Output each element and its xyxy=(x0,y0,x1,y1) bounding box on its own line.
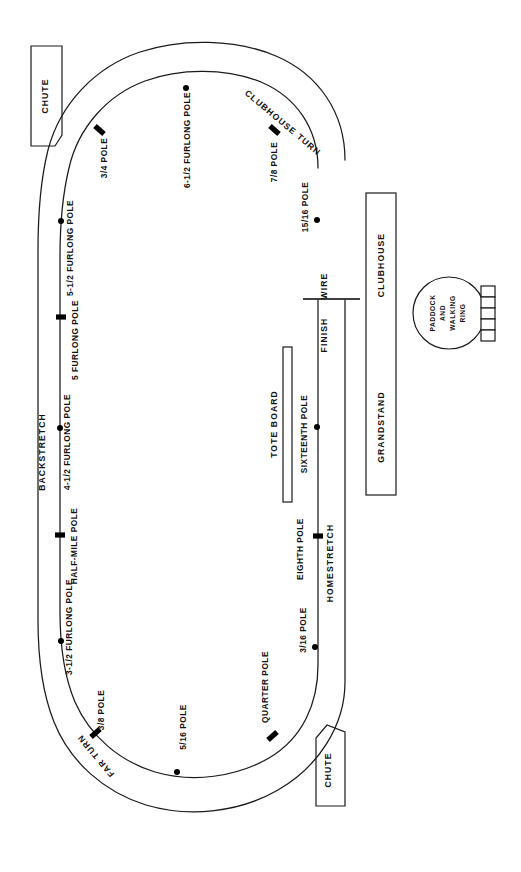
pole-marker-sixteenth: SIXTEENTH POLE xyxy=(299,395,320,473)
pole-marker-five-sixteenths: 5/16 POLE xyxy=(174,704,188,775)
paddock-label-line4: RING xyxy=(459,304,466,323)
pole-marker-four-and-half-furlong: 4-1/2 FURLONG POLE xyxy=(57,394,72,490)
seven-eighths-pole-label: 7/8 POLE xyxy=(269,142,279,182)
five-and-half-furlong-pole-dot xyxy=(58,218,64,224)
wire-label: WIRE xyxy=(319,273,329,300)
seven-eighths-pole-bar xyxy=(270,126,279,134)
chute-top-label: CHUTE xyxy=(40,78,50,113)
tote-board-box xyxy=(283,347,292,502)
section-label-backstretch: BACKSTRETCH xyxy=(37,413,47,491)
paddock-label-line2: AND xyxy=(439,305,446,321)
chute-top: CHUTE xyxy=(31,46,62,146)
eighth-pole-label: EIGHTH POLE xyxy=(295,518,305,580)
paddock-label-line1: PADDOCK xyxy=(429,294,436,331)
pole-marker-eighth: EIGHTH POLE xyxy=(295,518,323,580)
fifteen-sixteenths-pole-dot xyxy=(314,217,320,223)
pole-marker-fifteen-sixteenths: 15/16 POLE xyxy=(300,182,320,233)
section-label-clubhouse-turn: CLUBHOUSE TURN xyxy=(243,88,323,157)
five-furlong-pole-label: 5 FURLONG POLE xyxy=(70,300,80,380)
clubhouse-label: CLUBHOUSE xyxy=(376,233,386,297)
three-sixteenths-pole-label: 3/16 POLE xyxy=(298,607,308,653)
tote-board: TOTE BOARD xyxy=(269,347,292,502)
pole-marker-quarter: QUARTER POLE xyxy=(260,651,277,740)
four-and-half-furlong-pole-label: 4-1/2 FURLONG POLE xyxy=(62,394,72,490)
six-and-half-furlong-pole-dot xyxy=(183,85,189,91)
stall-cell xyxy=(481,319,495,330)
stall-cell xyxy=(481,297,495,308)
pole-marker-three-quarter: 3/4 POLE xyxy=(95,126,109,178)
racetrack-diagram: CHUTE CHUTE TOTE BOARD CLUBHOUSE GRANDST… xyxy=(0,0,521,872)
pole-marker-seven-eighths: 7/8 POLE xyxy=(269,126,279,182)
grandstand-label: GRANDSTAND xyxy=(376,391,386,462)
stall-cell xyxy=(481,308,495,319)
quarter-pole-label: QUARTER POLE xyxy=(260,651,270,723)
three-and-half-furlong-pole-label: 3-1/2 FURLONG POLE xyxy=(64,579,74,675)
track-diagram-svg: CHUTE CHUTE TOTE BOARD CLUBHOUSE GRANDST… xyxy=(0,0,521,872)
section-label-homestretch: HOMESTRETCH xyxy=(325,524,335,602)
grandstand-clubhouse-structure: CLUBHOUSE GRANDSTAND xyxy=(366,193,396,495)
five-sixteenths-pole-label: 5/16 POLE xyxy=(178,704,188,750)
pole-marker-three-sixteenths: 3/16 POLE xyxy=(298,607,318,653)
five-sixteenths-pole-dot xyxy=(174,769,180,775)
pole-marker-six-and-half-furlong: 6-1/2 FURLONG POLE xyxy=(182,85,192,188)
paddock-label-line3: WALKING xyxy=(449,295,456,330)
finish-wire-marker: WIRE FINISH xyxy=(303,273,360,353)
five-and-half-furlong-pole-label: 5-1/2 FURLONG POLE xyxy=(65,200,75,296)
fifteen-sixteenths-pole-label: 15/16 POLE xyxy=(300,182,310,233)
three-sixteenths-pole-dot xyxy=(312,644,318,650)
sixteenth-pole-label: SIXTEENTH POLE xyxy=(299,395,309,473)
sixteenth-pole-dot xyxy=(314,424,320,430)
six-and-half-furlong-pole-label: 6-1/2 FURLONG POLE xyxy=(182,92,192,188)
three-quarter-pole-label: 3/4 POLE xyxy=(99,138,109,178)
stall-cell xyxy=(481,286,495,297)
pole-marker-three-eighths: 3/8 POLE xyxy=(91,690,106,737)
finish-label: FINISH xyxy=(319,318,329,353)
paddock-stalls xyxy=(481,286,495,341)
chute-bottom-label: CHUTE xyxy=(323,752,333,787)
three-quarter-pole-bar xyxy=(95,126,104,134)
half-mile-pole-label: HALF-MILE POLE xyxy=(69,508,79,585)
section-label-far-turn: FAR TURN xyxy=(75,733,116,779)
three-eighths-pole-label: 3/8 POLE xyxy=(96,690,106,730)
quarter-pole-bar xyxy=(268,732,277,740)
tote-board-label: TOTE BOARD xyxy=(269,390,279,458)
pole-marker-half-mile: HALF-MILE POLE xyxy=(55,508,79,585)
paddock-walking-ring: PADDOCK AND WALKING RING xyxy=(413,277,495,349)
stall-cell xyxy=(481,330,495,341)
